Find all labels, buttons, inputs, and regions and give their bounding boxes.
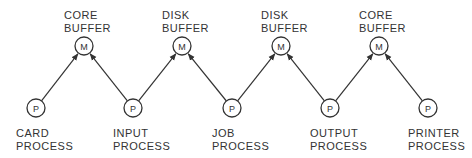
process-node-4: P bbox=[321, 99, 339, 117]
process-node-5: P bbox=[419, 99, 437, 117]
buffer-node-1: M bbox=[75, 37, 93, 55]
arrow-p1-to-m1 bbox=[42, 54, 78, 101]
node-symbol: P bbox=[327, 104, 333, 114]
process-node-2: P bbox=[124, 99, 142, 117]
arrow-p4-to-m4 bbox=[336, 54, 373, 101]
process-label-line2: PROCESS bbox=[113, 140, 170, 152]
buffer-label-line1: CORE bbox=[359, 9, 393, 21]
node-symbol: P bbox=[229, 104, 235, 114]
buffer-node-2: M bbox=[173, 37, 191, 55]
process-label-line2: PROCESS bbox=[16, 140, 73, 152]
process-label-line1: CARD bbox=[16, 127, 49, 139]
process-label-line2: PROCESS bbox=[310, 140, 367, 152]
process-node-3: P bbox=[223, 99, 241, 117]
arrow-p3-to-m2 bbox=[188, 54, 226, 101]
buffer-node-4: M bbox=[370, 37, 388, 55]
nodes: MMMMPPPPP bbox=[27, 37, 437, 117]
arrow-p2-to-m2 bbox=[139, 54, 176, 101]
process-node-1: P bbox=[27, 99, 45, 117]
process-label-line1: INPUT bbox=[113, 127, 149, 139]
edges bbox=[42, 54, 423, 101]
node-symbol: M bbox=[178, 42, 186, 52]
arrow-p4-to-m3 bbox=[287, 54, 324, 101]
node-symbol: P bbox=[33, 104, 39, 114]
arrow-p5-to-m4 bbox=[385, 54, 422, 101]
buffer-label-line2: BUFFER bbox=[359, 22, 406, 34]
process-label-line1: JOB bbox=[212, 127, 235, 139]
buffer-label-line2: BUFFER bbox=[261, 22, 308, 34]
process-label-line1: OUTPUT bbox=[310, 127, 358, 139]
process-label-line2: PROCESS bbox=[408, 140, 465, 152]
buffer-label-line2: BUFFER bbox=[162, 22, 209, 34]
process-label-line1: PRINTER bbox=[408, 127, 460, 139]
buffer-label-line1: DISK bbox=[162, 9, 190, 21]
node-symbol: M bbox=[80, 42, 88, 52]
node-symbol: P bbox=[425, 104, 431, 114]
node-symbol: P bbox=[130, 104, 136, 114]
node-symbol: M bbox=[277, 42, 285, 52]
process-label-line2: PROCESS bbox=[212, 140, 269, 152]
arrow-p3-to-m3 bbox=[238, 54, 275, 101]
buffer-label-line1: CORE bbox=[64, 9, 98, 21]
buffer-label-line2: BUFFER bbox=[64, 22, 111, 34]
buffer-label-line1: DISK bbox=[261, 9, 289, 21]
buffer-node-3: M bbox=[272, 37, 290, 55]
arrow-p2-to-m1 bbox=[90, 54, 127, 101]
node-symbol: M bbox=[375, 42, 383, 52]
